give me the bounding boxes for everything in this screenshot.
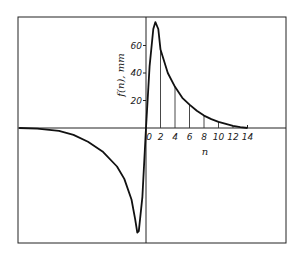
x-tick-label: 6 xyxy=(187,132,193,142)
y-tick-label: 40 xyxy=(131,68,143,78)
data-curve xyxy=(19,22,247,232)
y-tick-label: 20 xyxy=(131,96,143,106)
chart: 204060 02468101214 f(n), mm n xyxy=(0,0,301,257)
stem-lines xyxy=(161,50,234,128)
y-axis-label: f(n), mm xyxy=(115,53,126,97)
x-tick-label: 12 xyxy=(227,132,239,142)
x-tick-label: 8 xyxy=(201,132,207,142)
x-axis-label: n xyxy=(202,146,208,157)
y-tick-label: 60 xyxy=(131,41,143,51)
x-tick-label: 10 xyxy=(213,132,225,142)
x-tick-label: 14 xyxy=(242,132,254,142)
x-tick-label: 2 xyxy=(158,132,164,142)
y-ticks: 204060 xyxy=(131,41,146,106)
x-tick-label: 0 xyxy=(146,132,152,142)
x-tick-label: 4 xyxy=(172,132,178,142)
